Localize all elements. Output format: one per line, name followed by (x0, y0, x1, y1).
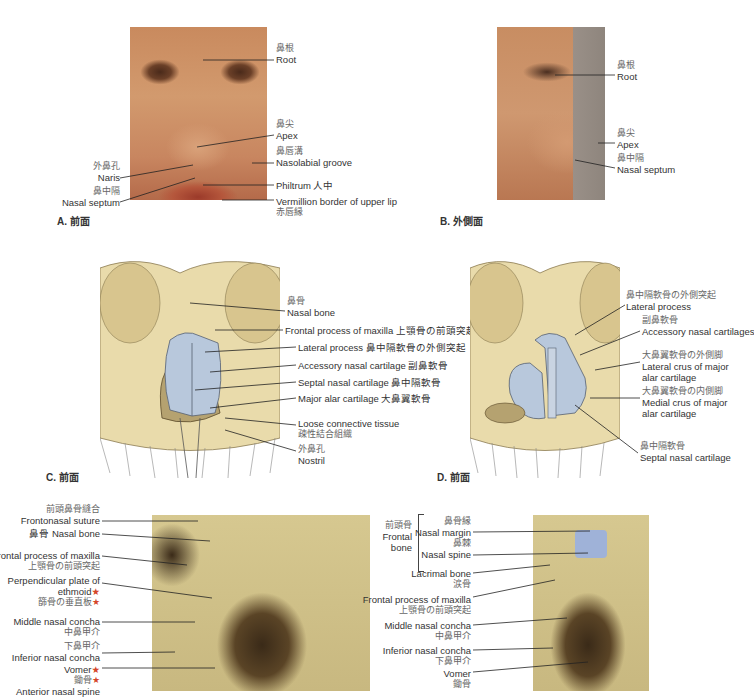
label-d-medial-crus: 大鼻翼軟骨の内側脚 Medial crus of major alar cart… (642, 386, 728, 419)
label-c-loose-en: Loose connective tissue (298, 418, 399, 429)
label-f-middle-concha-en: Middle nasal concha (384, 620, 471, 631)
label-e-perpendicular-en2: ethmoid (58, 586, 92, 597)
label-f-frontal-process: Frontal process of maxilla 上顎骨の前頭突起 (363, 594, 471, 616)
label-a-apex-en: Apex (276, 130, 298, 141)
label-a-vermillion-en: Vermillion border of upper lip (276, 196, 397, 207)
label-d-septal-jp: 鼻中隔軟骨 (640, 441, 731, 452)
label-f-nasal-margin-en: Nasal margin (415, 527, 471, 538)
label-f-nasal-spine-jp: 鼻棘 (421, 538, 471, 549)
label-c-loose: Loose connective tissue 疎性結合組織 (298, 418, 399, 440)
label-f-nasal-margin-jp: 鼻骨縁 (415, 516, 471, 527)
label-d-lateral-crus-en1: Lateral crus of major (642, 361, 729, 372)
label-d-lateral-crus-jp: 大鼻翼軟骨の外側脚 (642, 350, 729, 361)
label-c-accessory: Accessory nasal cartilage 副鼻軟骨 (298, 360, 448, 371)
label-d-septal-en: Septal nasal cartilage (640, 452, 731, 463)
label-f-lacrimal-en: Lacrimal bone (411, 568, 471, 579)
panel-c-illustration (100, 248, 280, 478)
label-f-vomer-jp: 鋤骨 (444, 679, 471, 690)
label-e-perpendicular: Perpendicular plate of ethmoid★ 篩骨の垂直板★ (8, 575, 100, 608)
star-icon: ★ (92, 675, 100, 685)
label-e-vomer: Vomer★ 鋤骨★ (64, 664, 100, 686)
label-f-frontal-process-en: Frontal process of maxilla (363, 594, 471, 605)
label-c-nostril: 外鼻孔 Nostril (298, 444, 325, 466)
star-icon: ★ (91, 664, 100, 675)
panel-c-caption: C. 前面 (46, 469, 79, 484)
label-d-lateral-crus-en2: alar cartilage (642, 372, 729, 383)
panel-a-photo (130, 27, 267, 200)
label-b-root: 鼻根 Root (617, 60, 637, 82)
label-e-vomer-jp: 鋤骨 (74, 675, 92, 685)
label-a-nasolabial-jp: 鼻唇溝 (276, 146, 352, 157)
label-b-apex-en: Apex (617, 139, 639, 150)
star-icon: ★ (91, 586, 100, 597)
label-e-frontonasal-jp: 前頭鼻骨縫合 (21, 504, 100, 515)
label-a-root-jp: 鼻根 (276, 43, 296, 54)
label-c-nostril-en: Nostril (298, 455, 325, 466)
star-icon: ★ (92, 597, 100, 607)
label-e-frontal-process-en: Frontal process of maxilla (0, 550, 100, 561)
label-f-inferior-concha-jp: 下鼻甲介 (383, 656, 471, 667)
label-f-middle-concha-jp: 中鼻甲介 (384, 631, 471, 642)
label-e-frontonasal-en: Frontonasal suture (21, 515, 100, 526)
label-a-septum-jp: 鼻中隔 (62, 186, 120, 197)
label-d-lateral-process-jp: 鼻中隔軟骨の外側突起 (626, 290, 716, 301)
label-b-septum: 鼻中隔 Nasal septum (617, 153, 675, 175)
label-d-septal: 鼻中隔軟骨 Septal nasal cartilage (640, 441, 731, 463)
label-e-inferior-concha-en: Inferior nasal concha (12, 652, 100, 663)
label-e-perpendicular-en1: Perpendicular plate of (8, 575, 100, 586)
label-e-frontal-process-jp: 上顎骨の前頭突起 (0, 561, 100, 572)
label-d-lateral-process: 鼻中隔軟骨の外側突起 Lateral process (626, 290, 716, 312)
label-d-medial-crus-en1: Medial crus of major (642, 397, 728, 408)
label-d-accessory-jp: 副鼻軟骨 (642, 315, 754, 326)
panel-d-illustration (470, 248, 620, 478)
label-e-vomer-en: Vomer (64, 664, 91, 675)
label-c-frontal-process: Frontal process of maxilla 上顎骨の前頭突起 (285, 325, 476, 336)
label-f-nasal-spine-en: Nasal spine (421, 549, 471, 560)
panel-b-caption: B. 外側面 (440, 213, 483, 228)
label-f-frontal-process-jp: 上顎骨の前頭突起 (363, 605, 471, 616)
label-e-middle-concha-jp: 中鼻甲介 (13, 627, 100, 638)
label-e-inferior-concha: 下鼻甲介 Inferior nasal concha (12, 641, 100, 663)
label-b-apex: 鼻尖 Apex (617, 128, 639, 150)
panel-e-photo (152, 515, 370, 691)
label-b-root-en: Root (617, 71, 637, 82)
label-d-medial-crus-en2: alar cartilage (642, 408, 728, 419)
label-a-naris-jp: 外鼻孔 (93, 161, 120, 172)
label-a-nasolabial: 鼻唇溝 Nasolabial groove (276, 146, 352, 168)
label-c-nostril-jp: 外鼻孔 (298, 444, 325, 455)
label-e-middle-concha-en: Middle nasal concha (13, 616, 100, 627)
panel-a-caption: A. 前面 (57, 213, 90, 228)
label-a-root: 鼻根 Root (276, 43, 296, 65)
label-f-inferior-concha-en: Inferior nasal concha (383, 645, 471, 656)
panel-d-caption: D. 前面 (437, 469, 470, 484)
label-e-perpendicular-jp: 篩骨の垂直板 (38, 597, 92, 607)
label-a-apex: 鼻尖 Apex (276, 119, 298, 141)
label-d-accessory: 副鼻軟骨 Accessory nasal cartilages (642, 315, 754, 337)
label-f-inferior-concha: Inferior nasal concha 下鼻甲介 (383, 645, 471, 667)
label-f-frontal-bone-en2: bone (377, 542, 412, 553)
label-f-frontal-bone-jp: 前頭骨 (377, 520, 412, 531)
label-c-nasal-bone: 鼻骨 Nasal bone (287, 296, 335, 318)
label-c-major-alar: Major alar cartilage 大鼻翼軟骨 (298, 393, 431, 404)
label-b-apex-jp: 鼻尖 (617, 128, 639, 139)
label-c-loose-jp: 疎性結合組織 (298, 429, 399, 440)
label-a-septum-en: Nasal septum (62, 197, 120, 208)
label-e-frontal-process: Frontal process of maxilla 上顎骨の前頭突起 (0, 550, 100, 572)
label-f-vomer: Vomer 鋤骨 (444, 668, 471, 690)
label-a-philtrum: Philtrum 人中 (276, 180, 333, 191)
label-e-inferior-concha-jp: 下鼻甲介 (12, 641, 100, 652)
label-a-septum: 鼻中隔 Nasal septum (62, 186, 120, 208)
label-a-vermillion: Vermillion border of upper lip 赤唇縁 (276, 196, 397, 218)
label-d-lateral-process-en: Lateral process (626, 301, 716, 312)
label-f-nasal-spine: 鼻棘 Nasal spine (421, 538, 471, 560)
label-e-anterior-spine: Anterior nasal spine (16, 686, 100, 697)
label-d-medial-crus-jp: 大鼻翼軟骨の内側脚 (642, 386, 728, 397)
label-c-septal: Septal nasal cartilage 鼻中隔軟骨 (298, 377, 441, 388)
label-a-naris-en: Naris (93, 172, 120, 183)
label-e-nasal-bone: 鼻骨 Nasal bone (29, 528, 100, 539)
label-e-middle-concha: Middle nasal concha 中鼻甲介 (13, 616, 100, 638)
label-b-septum-jp: 鼻中隔 (617, 153, 675, 164)
label-d-lateral-crus: 大鼻翼軟骨の外側脚 Lateral crus of major alar car… (642, 350, 729, 383)
label-a-root-en: Root (276, 54, 296, 65)
label-f-nasal-margin: 鼻骨縁 Nasal margin (415, 516, 471, 538)
